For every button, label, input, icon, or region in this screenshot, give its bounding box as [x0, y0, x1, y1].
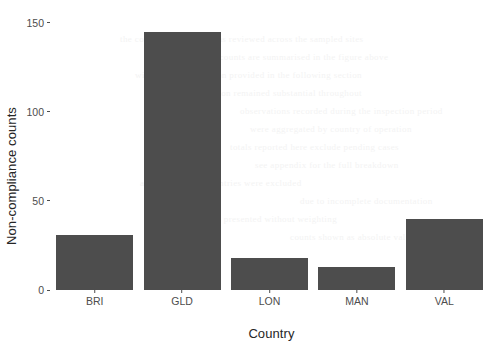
plot-panel: 050100150 BRIGLDLONMANVAL: [51, 14, 488, 290]
y-axis-tick-mark: [47, 290, 50, 291]
y-axis-tick-label: 150: [26, 18, 47, 29]
y-axis-tick-mark: [47, 111, 50, 112]
x-axis-tick: VAL: [435, 290, 454, 307]
x-axis-tick: LON: [259, 290, 281, 307]
bar: [231, 258, 308, 290]
x-axis-tick: BRI: [86, 290, 104, 307]
y-axis-tick-label: 0: [38, 285, 47, 296]
x-axis-tick-label: GLD: [171, 296, 193, 307]
x-axis-tick: MAN: [345, 290, 368, 307]
y-axis-tick-mark: [47, 22, 50, 23]
bar: [144, 32, 221, 290]
x-axis-tick-mark: [182, 290, 183, 293]
x-axis-tick-label: MAN: [345, 296, 368, 307]
y-axis-title: Non-compliance counts: [0, 0, 22, 352]
x-axis-tick: GLD: [171, 290, 193, 307]
x-axis-tick-mark: [269, 290, 270, 293]
x-axis-tick-label: BRI: [86, 296, 104, 307]
x-axis-tick-mark: [444, 290, 445, 293]
y-axis-tick-label: 50: [32, 196, 47, 207]
bar-chart: the compliance record was reviewed acros…: [0, 0, 492, 352]
bar: [318, 267, 395, 290]
x-axis-tick-label: VAL: [435, 296, 454, 307]
x-axis-tick-label: LON: [259, 296, 281, 307]
y-axis-tick-label: 100: [26, 107, 47, 118]
bar: [406, 219, 483, 290]
x-axis-title: Country: [51, 326, 492, 341]
x-axis-tick-mark: [94, 290, 95, 293]
x-axis-tick-mark: [356, 290, 357, 293]
bar: [56, 235, 133, 290]
y-axis-tick-mark: [47, 200, 50, 201]
